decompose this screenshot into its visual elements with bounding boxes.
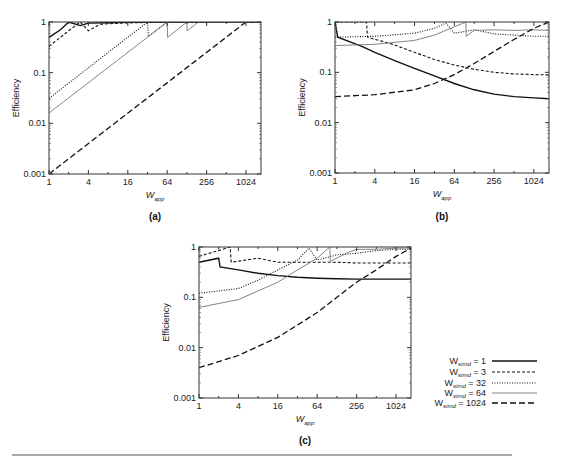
y-tick-label: 0.1 — [33, 68, 46, 78]
legend-entry-label: Wsimd = 3 — [450, 367, 486, 378]
panel-b-caption: (b) — [436, 211, 449, 222]
y-tick-label: 0.001 — [173, 393, 196, 403]
legend-entry-label: Wsimd = 1 — [450, 356, 486, 367]
series-line — [199, 248, 411, 368]
legend: Wsimd = 1Wsimd = 3Wsimd = 32Wsimd = 64Ws… — [435, 356, 537, 409]
x-tick-label: 1 — [332, 176, 337, 186]
x-tick-label: 16 — [410, 176, 420, 186]
panel-c-chart: 0.0010.010.111416642561024EfficiencyWapp — [161, 242, 411, 426]
plot-area — [335, 22, 549, 99]
x-axis-label: Wapp — [146, 190, 165, 202]
efficiency-figure: 0.0010.010.111416642561024EfficiencyWapp… — [0, 0, 562, 463]
y-axis-label: Efficiency — [297, 78, 307, 117]
plot-area — [199, 247, 411, 368]
x-tick-label: 16 — [273, 401, 283, 411]
y-tick-label: 0.1 — [319, 67, 332, 77]
y-tick-label: 1 — [327, 17, 332, 27]
y-tick-label: 1 — [191, 242, 196, 252]
plot-area — [49, 22, 261, 174]
y-tick-label: 1 — [41, 17, 46, 27]
y-tick-label: 0.01 — [314, 118, 332, 128]
x-tick-label: 256 — [487, 176, 502, 186]
y-tick-label: 0.01 — [28, 118, 46, 128]
x-axis-label: Wapp — [433, 189, 452, 201]
x-tick-label: 1024 — [386, 401, 406, 411]
legend-entry-label: Wsimd = 1024 — [435, 398, 486, 409]
x-tick-label: 4 — [236, 401, 241, 411]
series-line — [335, 22, 549, 99]
x-tick-label: 64 — [312, 401, 322, 411]
plot-frame — [199, 247, 411, 398]
y-tick-label: 0.01 — [178, 343, 196, 353]
series-line — [49, 22, 261, 174]
panel-a-caption: (a) — [149, 211, 161, 222]
x-tick-label: 256 — [199, 177, 214, 187]
series-line — [49, 22, 261, 98]
x-tick-label: 4 — [372, 176, 377, 186]
y-tick-label: 0.001 — [23, 169, 46, 179]
x-tick-label: 1 — [196, 401, 201, 411]
x-tick-label: 1 — [46, 177, 51, 187]
y-tick-label: 0.001 — [309, 168, 332, 178]
panel-a-chart: 0.0010.010.111416642561024EfficiencyWapp — [11, 17, 261, 202]
x-tick-label: 1024 — [524, 176, 544, 186]
x-tick-label: 1024 — [236, 177, 256, 187]
x-axis-label: Wapp — [296, 414, 315, 426]
y-axis-label: Efficiency — [11, 78, 21, 117]
y-tick-label: 0.1 — [183, 292, 196, 302]
x-tick-label: 64 — [449, 176, 459, 186]
y-axis-label: Efficiency — [161, 303, 171, 342]
panel-b-chart: 0.0010.010.111416642561024EfficiencyWapp — [297, 17, 549, 201]
x-tick-label: 4 — [86, 177, 91, 187]
plot-frame — [49, 22, 261, 174]
x-tick-label: 256 — [349, 401, 364, 411]
panel-c-caption: (c) — [299, 435, 311, 446]
x-tick-label: 16 — [123, 177, 133, 187]
x-tick-label: 64 — [162, 177, 172, 187]
